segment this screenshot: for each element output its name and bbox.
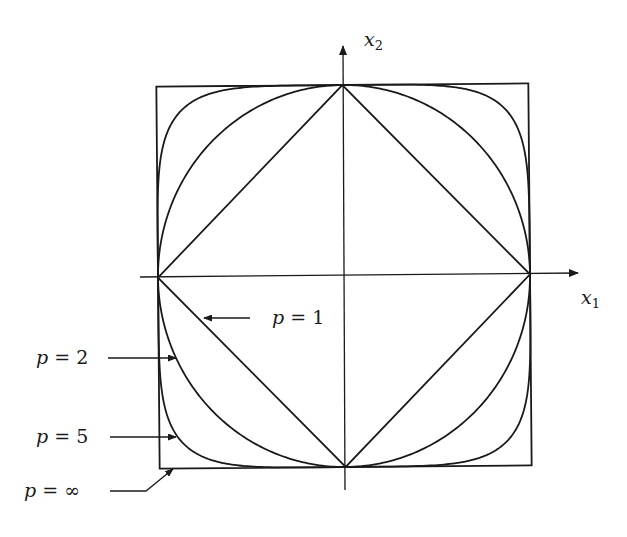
p1-label: p = 1 [272,308,324,327]
pinf-pointer-arrow [110,469,173,491]
x1-axis [140,273,578,277]
x1-axis-label: x1 [581,288,600,310]
p5-label: p = 5 [36,427,88,446]
p2-label: p = 2 [36,348,88,367]
pinf-label: p = ∞ [24,481,80,500]
x2-axis-label: x2 [364,30,383,52]
x2-axis [343,46,345,490]
p-norm-unit-balls-diagram [0,0,627,537]
